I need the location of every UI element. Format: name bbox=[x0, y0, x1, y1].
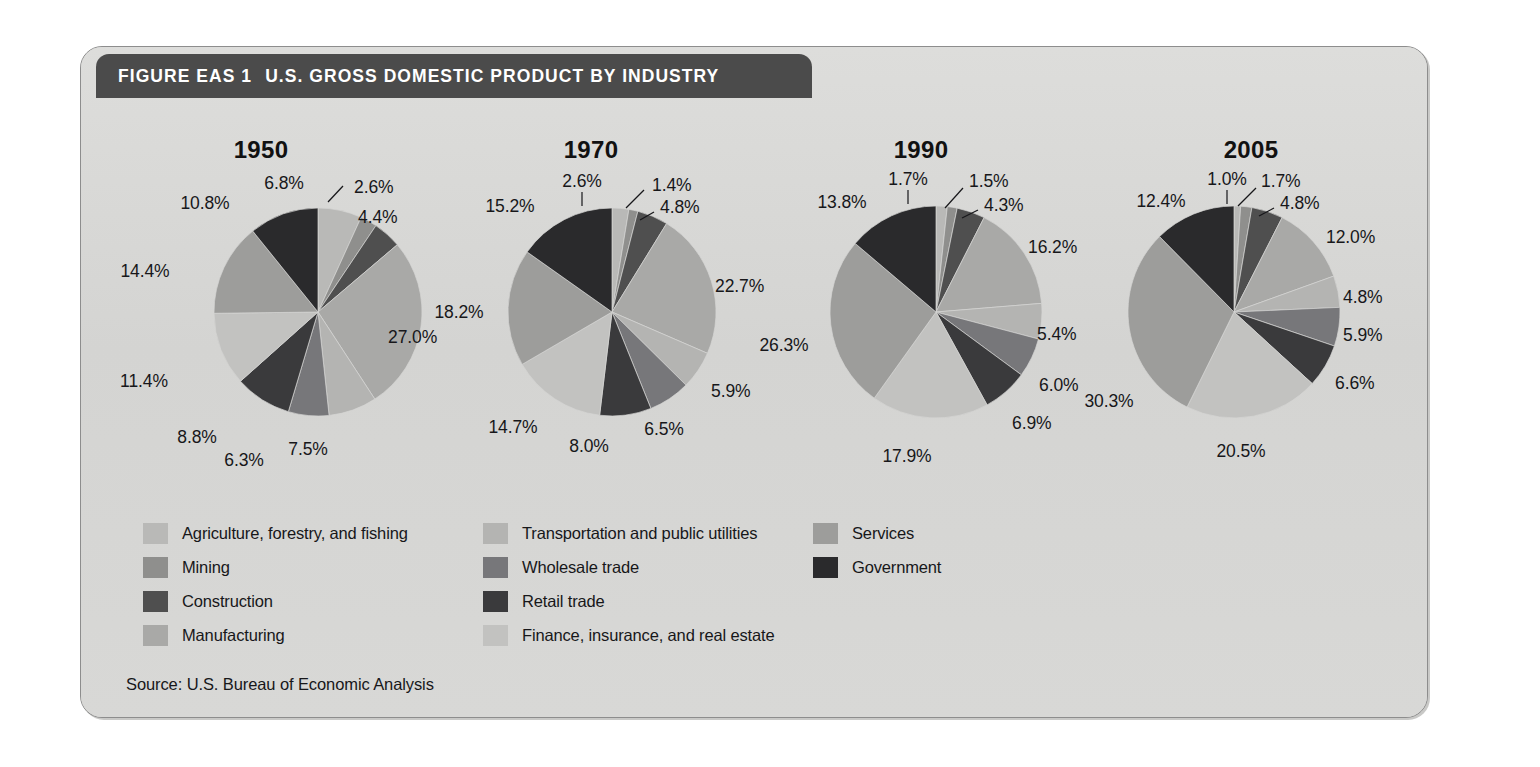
pie-value-label: 4.4% bbox=[358, 207, 398, 228]
legend-label: Agriculture, forestry, and fishing bbox=[182, 524, 408, 543]
legend-item-manufacturing[interactable]: Manufacturing bbox=[143, 618, 483, 652]
label-leader-line bbox=[328, 186, 343, 202]
pie-value-label: 26.3% bbox=[759, 335, 808, 356]
pie-value-label: 13.8% bbox=[817, 192, 866, 213]
legend-item-construction[interactable]: Construction bbox=[143, 584, 483, 618]
figure-number: FIGURE EAS 1 bbox=[118, 66, 252, 86]
pie-value-label: 4.8% bbox=[1280, 193, 1320, 214]
pie-value-label: 2.6% bbox=[354, 177, 394, 198]
pie-value-label: 5.4% bbox=[1037, 324, 1077, 345]
legend-swatch-retail bbox=[483, 591, 508, 612]
legend-swatch-mining bbox=[143, 557, 168, 578]
legend: Agriculture, forestry, and fishingMining… bbox=[143, 516, 1323, 646]
pie-value-label: 5.9% bbox=[1343, 325, 1383, 346]
label-leader-line bbox=[626, 190, 644, 208]
pie-value-label: 12.4% bbox=[1136, 191, 1185, 212]
pie-svg bbox=[756, 120, 1111, 490]
pie-value-label: 8.8% bbox=[177, 427, 217, 448]
legend-column-3: ServicesGovernment bbox=[813, 516, 1033, 646]
pie-value-label: 1.7% bbox=[1261, 171, 1301, 192]
label-leader-line bbox=[945, 188, 963, 208]
legend-swatch-agriculture bbox=[143, 523, 168, 544]
pie-wrap: 2.6%1.4%4.8%22.7%5.9%6.5%8.0%14.7%18.2%1… bbox=[426, 120, 756, 490]
pie-value-label: 6.6% bbox=[1335, 373, 1375, 394]
pie-value-label: 6.8% bbox=[264, 173, 304, 194]
pie-value-label: 18.2% bbox=[434, 302, 483, 323]
legend-label: Transportation and public utilities bbox=[522, 524, 757, 543]
pie-value-label: 6.9% bbox=[1012, 413, 1052, 434]
legend-column-2: Transportation and public utilitiesWhole… bbox=[483, 516, 813, 646]
pie-chart-1990: 19901.7%1.5%4.3%16.2%5.4%6.0%6.9%17.9%26… bbox=[756, 120, 1086, 490]
legend-item-agriculture[interactable]: Agriculture, forestry, and fishing bbox=[143, 516, 483, 550]
legend-item-wholesale[interactable]: Wholesale trade bbox=[483, 550, 813, 584]
figure-title-text: U.S. GROSS DOMESTIC PRODUCT BY INDUSTRY bbox=[265, 66, 719, 86]
legend-label: Government bbox=[852, 558, 941, 577]
legend-swatch-services bbox=[813, 523, 838, 544]
legend-item-government[interactable]: Government bbox=[813, 550, 1033, 584]
legend-label: Finance, insurance, and real estate bbox=[522, 626, 775, 645]
pie-value-label: 5.9% bbox=[711, 381, 751, 402]
pie-wrap: 6.8%2.6%4.4%27.0%7.5%6.3%8.8%11.4%14.4%1… bbox=[96, 120, 426, 490]
pie-charts-row: 19506.8%2.6%4.4%27.0%7.5%6.3%8.8%11.4%14… bbox=[96, 120, 1416, 490]
pie-value-label: 1.7% bbox=[888, 169, 928, 190]
legend-item-finance[interactable]: Finance, insurance, and real estate bbox=[483, 618, 813, 652]
figure-title: FIGURE EAS 1U.S. GROSS DOMESTIC PRODUCT … bbox=[118, 66, 719, 87]
legend-swatch-government bbox=[813, 557, 838, 578]
pie-value-label: 1.5% bbox=[969, 171, 1009, 192]
pie-wrap: 1.7%1.5%4.3%16.2%5.4%6.0%6.9%17.9%26.3%1… bbox=[756, 120, 1086, 490]
pie-value-label: 10.8% bbox=[180, 193, 229, 214]
pie-value-label: 16.2% bbox=[1028, 237, 1077, 258]
pie-value-label: 12.0% bbox=[1326, 227, 1375, 248]
pie-value-label: 17.9% bbox=[882, 446, 931, 467]
pie-chart-2005: 20051.0%1.7%4.8%12.0%4.8%5.9%6.6%20.5%30… bbox=[1086, 120, 1416, 490]
pie-value-label: 1.4% bbox=[652, 175, 692, 196]
pie-value-label: 11.4% bbox=[120, 371, 168, 392]
legend-swatch-construction bbox=[143, 591, 168, 612]
figure-header-bar: FIGURE EAS 1U.S. GROSS DOMESTIC PRODUCT … bbox=[96, 54, 812, 98]
pie-value-label: 15.2% bbox=[485, 196, 534, 217]
pie-value-label: 14.4% bbox=[120, 261, 169, 282]
legend-swatch-manufacturing bbox=[143, 625, 168, 646]
source-note: Source: U.S. Bureau of Economic Analysis bbox=[126, 675, 434, 694]
legend-swatch-finance bbox=[483, 625, 508, 646]
pie-value-label: 14.7% bbox=[488, 417, 537, 438]
legend-label: Retail trade bbox=[522, 592, 605, 611]
legend-item-mining[interactable]: Mining bbox=[143, 550, 483, 584]
legend-item-services[interactable]: Services bbox=[813, 516, 1033, 550]
pie-value-label: 20.5% bbox=[1216, 441, 1265, 462]
legend-label: Manufacturing bbox=[182, 626, 285, 645]
legend-swatch-transportation bbox=[483, 523, 508, 544]
pie-value-label: 4.3% bbox=[984, 195, 1024, 216]
legend-label: Construction bbox=[182, 592, 273, 611]
legend-item-transportation[interactable]: Transportation and public utilities bbox=[483, 516, 813, 550]
pie-value-label: 4.8% bbox=[660, 197, 700, 218]
pie-chart-1970: 19702.6%1.4%4.8%22.7%5.9%6.5%8.0%14.7%18… bbox=[426, 120, 756, 490]
pie-value-label: 8.0% bbox=[569, 436, 609, 457]
pie-value-label: 6.5% bbox=[644, 419, 684, 440]
legend-label: Wholesale trade bbox=[522, 558, 639, 577]
pie-value-label: 6.0% bbox=[1039, 375, 1079, 396]
pie-wrap: 1.0%1.7%4.8%12.0%4.8%5.9%6.6%20.5%30.3%1… bbox=[1086, 120, 1416, 490]
legend-label: Services bbox=[852, 524, 914, 543]
figure-page: FIGURE EAS 1U.S. GROSS DOMESTIC PRODUCT … bbox=[0, 0, 1540, 767]
legend-label: Mining bbox=[182, 558, 230, 577]
pie-value-label: 30.3% bbox=[1084, 391, 1133, 412]
pie-chart-1950: 19506.8%2.6%4.4%27.0%7.5%6.3%8.8%11.4%14… bbox=[96, 120, 426, 490]
pie-value-label: 7.5% bbox=[288, 439, 328, 460]
pie-value-label: 4.8% bbox=[1343, 287, 1383, 308]
pie-value-label: 2.6% bbox=[562, 171, 602, 192]
legend-item-retail[interactable]: Retail trade bbox=[483, 584, 813, 618]
pie-value-label: 6.3% bbox=[224, 450, 264, 471]
legend-column-1: Agriculture, forestry, and fishingMining… bbox=[143, 516, 483, 646]
label-leader-line bbox=[1238, 188, 1256, 206]
legend-swatch-wholesale bbox=[483, 557, 508, 578]
pie-value-label: 1.0% bbox=[1207, 169, 1247, 190]
